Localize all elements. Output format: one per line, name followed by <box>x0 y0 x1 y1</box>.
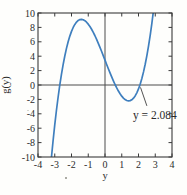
x-tick-label: 2 <box>136 159 141 170</box>
x-tick-label: -2 <box>67 159 75 170</box>
x-tick-label: 1 <box>119 159 124 170</box>
scan-speckle <box>27 110 29 111</box>
x-tick-label: 3 <box>153 159 158 170</box>
x-tick-label: -4 <box>34 159 42 170</box>
scan-speckle <box>65 177 67 179</box>
y-tick-label: 6 <box>30 36 35 47</box>
chart-canvas: -4-3-2-101234-10-8-6-4-20246810yg(y)y = … <box>0 0 187 195</box>
root-annotation: y = 2.084 <box>133 109 177 122</box>
y-tick-label: -10 <box>22 152 35 163</box>
y-tick-label: -2 <box>27 94 35 105</box>
y-tick-label: 0 <box>30 80 35 91</box>
y-tick-label: 8 <box>30 22 35 33</box>
figure-plot: -4-3-2-101234-10-8-6-4-20246810yg(y)y = … <box>0 0 187 195</box>
y-tick-label: 10 <box>25 8 35 19</box>
annotation-leader-line <box>141 87 147 106</box>
y-tick-label: 4 <box>30 51 35 62</box>
x-tick-label: 4 <box>170 159 175 170</box>
function-curve <box>51 10 154 167</box>
x-tick-label: -3 <box>51 159 59 170</box>
y-tick-label: -6 <box>27 123 35 134</box>
y-tick-label: -8 <box>27 137 35 148</box>
x-axis-label: y <box>102 170 108 181</box>
x-tick-label: -1 <box>84 159 92 170</box>
y-axis-label: g(y) <box>0 76 12 94</box>
x-tick-label: 0 <box>103 159 108 170</box>
y-tick-label: 2 <box>30 65 35 76</box>
